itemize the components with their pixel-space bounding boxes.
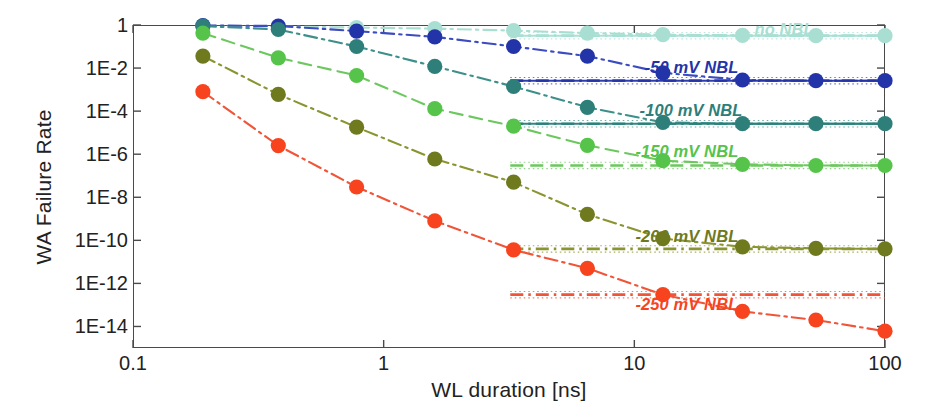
data-point	[877, 73, 892, 88]
trend-line	[203, 26, 885, 124]
data-point	[877, 241, 892, 256]
data-point	[271, 50, 286, 65]
plot-area: no NBL-50 mV NBL-100 mV NBL-150 mV NBL-2…	[133, 25, 885, 348]
legend-label-4: -150 mV NBL	[635, 142, 738, 161]
y-tick-label: 1E-8	[86, 186, 128, 209]
y-tick-label: 1E-14	[75, 315, 128, 338]
data-point	[580, 138, 595, 153]
data-point	[580, 261, 595, 276]
data-point	[506, 242, 521, 257]
legend-label-5: -200 mV NBL	[635, 227, 738, 246]
data-point	[271, 22, 286, 37]
series-4	[195, 26, 892, 174]
data-point	[349, 179, 364, 194]
data-point	[195, 84, 210, 99]
y-tick-label: 1E-6	[86, 143, 128, 166]
y-tick-label: 1E-2	[86, 57, 128, 80]
data-point	[271, 87, 286, 102]
data-point	[580, 100, 595, 115]
data-point	[655, 27, 670, 42]
series-6	[195, 84, 892, 339]
data-point	[271, 138, 286, 153]
data-point	[427, 151, 442, 166]
data-point	[427, 59, 442, 74]
y-tick-label: 1E-10	[75, 229, 128, 252]
chart-figure: WA Failure Rate 11E-21E-41E-61E-81E-101E…	[0, 0, 933, 412]
data-point	[877, 116, 892, 131]
data-point	[877, 324, 892, 339]
data-point	[195, 49, 210, 64]
data-point	[580, 49, 595, 64]
x-tick-label: 1	[378, 352, 389, 375]
legend-label-6: -250 mV NBL	[635, 295, 738, 314]
data-layer	[133, 25, 885, 348]
x-tick-label: 0.1	[119, 352, 147, 375]
data-point	[877, 158, 892, 173]
data-point	[506, 39, 521, 54]
data-point	[349, 68, 364, 83]
data-point	[349, 39, 364, 54]
data-point	[506, 23, 521, 38]
y-tick-label: 1E-12	[75, 272, 128, 295]
trend-line	[203, 56, 885, 249]
x-tick-label: 100	[868, 352, 901, 375]
data-point	[506, 175, 521, 190]
data-point	[427, 101, 442, 116]
data-point	[580, 26, 595, 41]
legend-label-1: no NBL	[755, 20, 814, 39]
data-point	[808, 73, 823, 88]
data-point	[349, 120, 364, 135]
data-point	[195, 26, 210, 41]
data-point	[506, 79, 521, 94]
x-tick-label: 10	[623, 352, 645, 375]
data-point	[808, 312, 823, 327]
data-point	[808, 116, 823, 131]
data-point	[808, 241, 823, 256]
data-point	[506, 119, 521, 134]
data-point	[349, 24, 364, 39]
trend-line	[203, 33, 885, 165]
data-point	[877, 28, 892, 43]
y-tick-label: 1	[117, 14, 128, 37]
y-tick-label: 1E-4	[86, 100, 128, 123]
data-point	[580, 207, 595, 222]
data-point	[427, 29, 442, 44]
data-point	[808, 158, 823, 173]
legend-label-3: -100 mV NBL	[640, 101, 743, 120]
data-point	[427, 213, 442, 228]
y-axis-tick-labels: 11E-21E-41E-61E-81E-101E-121E-14	[0, 0, 128, 412]
legend-label-2: -50 mV NBL	[645, 58, 739, 77]
data-point	[735, 28, 750, 43]
x-axis-label: WL duration [ns]	[133, 378, 885, 402]
